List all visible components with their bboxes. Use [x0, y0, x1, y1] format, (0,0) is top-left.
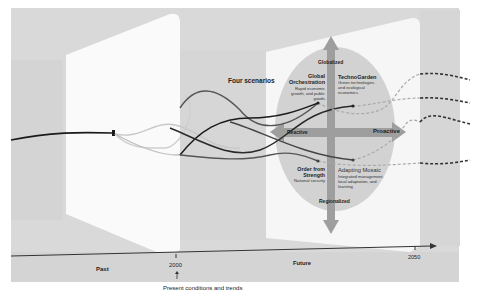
scenario-name-global-orchestration: Global Orchestration — [285, 73, 325, 85]
scenario-desc-order-from-strength: National security — [294, 179, 325, 184]
timeline-label-2000: 2000 — [169, 262, 182, 268]
axis-label-bottom: Regionalized — [319, 198, 350, 204]
scenario-name-order-from-strength: Order from Strength — [291, 166, 325, 178]
right-band — [420, 10, 460, 246]
diagram-title: Four scenarios — [228, 77, 275, 84]
axis-label-top: Globalized — [318, 59, 343, 65]
scenario-name-adapting-mosaic: Adapting Mosaic — [338, 167, 381, 173]
diagram-canvas — [0, 0, 477, 305]
axis-label-right: Proactive — [373, 128, 400, 134]
present-node — [112, 130, 115, 136]
left-shade — [11, 60, 63, 220]
endpoint-order-from-strength — [316, 159, 319, 162]
axis-label-left: Reactive — [287, 129, 308, 135]
present-conditions-label: Present conditions and trends — [163, 285, 242, 291]
scenario-diagram: Four scenarios Globalized Regionalized R… — [0, 0, 477, 305]
endpoint-technogarden — [351, 104, 354, 107]
timeline-label-future: Future — [293, 260, 311, 266]
endpoint-global-orchestration — [316, 101, 319, 104]
scenario-desc-technogarden: Green technologies and ecological econom… — [338, 81, 380, 95]
timeline-label-past: Past — [96, 266, 109, 272]
endpoint-adapting-mosaic — [351, 158, 354, 161]
scenario-desc-global-orchestration: Rapid economic growth, and public goods — [281, 87, 325, 101]
scenario-desc-adapting-mosaic: Integrated management, local adaptation,… — [338, 175, 384, 189]
floor — [11, 252, 459, 282]
timeline-label-2050: 2050 — [408, 254, 420, 260]
